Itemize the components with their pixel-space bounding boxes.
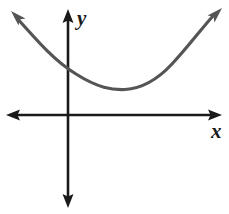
x-axis: [6, 110, 222, 121]
parabola-curve: [11, 8, 222, 90]
graph-figure: y x: [0, 0, 229, 214]
coordinate-plane-svg: [0, 0, 229, 214]
parabola-path: [16, 16, 213, 90]
y-axis-label: y: [77, 8, 86, 29]
x-axis-label: x: [211, 121, 222, 142]
y-axis: [63, 9, 74, 208]
